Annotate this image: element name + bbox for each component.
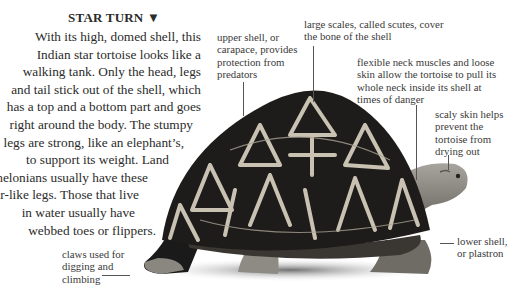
label-line: the bone of the shell bbox=[304, 30, 444, 42]
body-line: Indian star tortoise looks like a bbox=[0, 46, 201, 64]
carapace-label: upper shell, or carapace, provides prote… bbox=[217, 31, 297, 81]
label-line: upper shell, or bbox=[217, 31, 297, 43]
label-line: times of danger bbox=[357, 93, 496, 105]
scutes-leader-line bbox=[313, 46, 314, 102]
skin-label: scaly skin helps prevent the tortoise fr… bbox=[435, 108, 503, 158]
body-line: in water usually have bbox=[0, 204, 135, 222]
label-line: flexible neck muscles and loose bbox=[357, 56, 496, 68]
label-line: lower shell, bbox=[457, 235, 507, 247]
label-line: or plastron bbox=[457, 247, 507, 259]
label-line: claws used for bbox=[62, 248, 124, 260]
body-line: With its high, domed shell, this bbox=[0, 28, 201, 46]
label-line: prevent the bbox=[435, 120, 503, 132]
label-line: drying out bbox=[435, 145, 503, 157]
section-heading: STAR TURN ▼ bbox=[68, 10, 160, 26]
label-line: predators bbox=[217, 68, 297, 80]
label-line: digging and bbox=[62, 260, 124, 272]
scutes-label: large scales, called scutes, cover the b… bbox=[304, 18, 444, 43]
label-line: climbing bbox=[62, 273, 124, 285]
carapace-leader-line bbox=[243, 82, 244, 116]
plastron-leader-line bbox=[440, 243, 454, 244]
label-line: skin allow the tortoise to pull its bbox=[357, 68, 496, 80]
tortoise-image bbox=[140, 80, 470, 285]
label-line: scaly skin helps bbox=[435, 108, 503, 120]
body-line: webbed toes or flippers. bbox=[0, 222, 156, 240]
label-line: carapace, provides bbox=[217, 43, 297, 55]
body-line: walking tank. Only the head, legs bbox=[0, 63, 201, 81]
neck-label: flexible neck muscles and loose skin all… bbox=[357, 56, 496, 106]
label-line: large scales, called scutes, cover bbox=[304, 18, 444, 30]
down-triangle-icon: ▼ bbox=[147, 10, 160, 25]
body-line: chelonians usually have these bbox=[0, 169, 148, 187]
plastron-label: lower shell, or plastron bbox=[457, 235, 507, 260]
label-line: tortoise from bbox=[435, 133, 503, 145]
neck-leader-line bbox=[416, 105, 417, 180]
label-line: protection from bbox=[217, 56, 297, 68]
heading-title: STAR TURN bbox=[68, 10, 143, 25]
body-line: pillar-like legs. Those that live bbox=[0, 186, 139, 204]
label-line: whole neck inside its shell at bbox=[357, 81, 496, 93]
claws-label: claws used for digging and climbing bbox=[62, 248, 124, 285]
